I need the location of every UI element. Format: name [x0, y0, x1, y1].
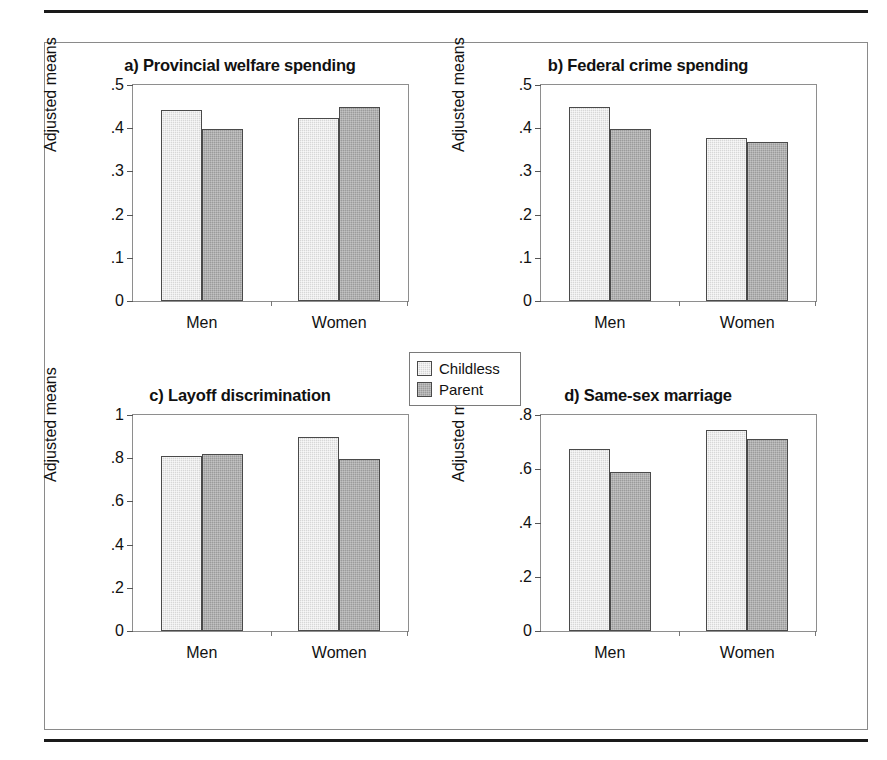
legend-label-childless: Childless — [439, 361, 500, 376]
panel-b-x-tick-mark — [815, 301, 816, 306]
bottom-rule — [44, 739, 868, 742]
panel-a-plot-area: 0.1.2.3.4.5MenWomen — [132, 84, 409, 302]
panel-b-x-tick-mark — [679, 301, 680, 306]
childless-swatch-icon — [417, 361, 432, 376]
panel-a-x-tick-mark — [407, 301, 408, 306]
panel-c: c) Layoff discrimination Adjusted means … — [50, 386, 430, 691]
panel-d-y-tick-mark — [535, 469, 541, 470]
legend-label-parent: Parent — [439, 382, 483, 397]
panel-d-x-tick-label-women: Women — [720, 644, 775, 662]
panel-d-x-tick-mark — [679, 631, 680, 636]
legend: Childless Parent — [409, 352, 521, 406]
panel-c-y-tick-mark — [127, 545, 133, 546]
bar-c-women-parent — [339, 459, 380, 631]
panel-c-y-tick-mark — [127, 415, 133, 416]
panel-d-y-tick-mark — [535, 631, 541, 632]
bar-c-men-childless — [161, 456, 202, 631]
panel-a-y-tick-mark — [127, 85, 133, 86]
panel-d-x-tick-label-men: Men — [594, 644, 625, 662]
panel-a-x-tick-label-women: Women — [312, 314, 367, 332]
bar-a-women-childless — [298, 118, 339, 301]
panel-a-x-tick-mark — [271, 301, 272, 306]
panel-c-y-tick-mark — [127, 631, 133, 632]
panel-d: d) Same-sex marriage Adjusted means 0.2.… — [458, 386, 838, 691]
panel-b-y-tick-mark — [535, 215, 541, 216]
panel-c-y-tick-mark — [127, 588, 133, 589]
panel-b-title: b) Federal crime spending — [458, 56, 838, 75]
panel-d-x-tick-mark — [815, 631, 816, 636]
panel-a-x-tick-label-men: Men — [186, 314, 217, 332]
panel-a-title: a) Provincial welfare spending — [50, 56, 430, 75]
panel-b-y-tick-mark — [535, 301, 541, 302]
bar-a-men-childless — [161, 110, 202, 301]
panel-a-y-tick-mark — [127, 171, 133, 172]
panel-c-y-tick-mark — [127, 501, 133, 502]
legend-item-childless: Childless — [417, 358, 520, 379]
panel-d-y-tick-mark — [535, 415, 541, 416]
panel-a-y-tick-mark — [127, 258, 133, 259]
panel-d-y-tick-mark — [535, 577, 541, 578]
bar-a-men-parent — [202, 129, 243, 301]
panel-d-plot-area: 0.2.4.6.8MenWomen — [540, 414, 817, 632]
bar-b-men-parent — [610, 129, 651, 301]
bar-c-women-childless — [298, 437, 339, 631]
parent-swatch-icon — [417, 382, 432, 397]
top-rule — [44, 10, 868, 13]
legend-item-parent: Parent — [417, 379, 520, 400]
panel-b-y-tick-mark — [535, 171, 541, 172]
panel-a: a) Provincial welfare spending Adjusted … — [50, 56, 430, 361]
bar-c-men-parent — [202, 454, 243, 631]
panel-b-plot-area: 0.1.2.3.4.5MenWomen — [540, 84, 817, 302]
panel-a-y-tick-mark — [127, 215, 133, 216]
panel-c-y-axis-label: Adjusted means — [42, 367, 60, 482]
panel-d-y-tick-mark — [535, 523, 541, 524]
panel-b-y-tick-mark — [535, 258, 541, 259]
panel-c-x-tick-mark — [407, 631, 408, 636]
panel-b-y-tick-mark — [535, 85, 541, 86]
panel-c-x-tick-mark — [271, 631, 272, 636]
panel-b-x-tick-label-women: Women — [720, 314, 775, 332]
panel-a-y-tick-mark — [127, 301, 133, 302]
bar-d-men-parent — [610, 472, 651, 631]
bar-a-women-parent — [339, 107, 380, 301]
bar-d-women-childless — [706, 430, 747, 631]
bar-d-women-parent — [747, 439, 788, 631]
panel-c-title: c) Layoff discrimination — [50, 386, 430, 405]
panel-a-y-tick-mark — [127, 128, 133, 129]
bar-b-women-childless — [706, 138, 747, 301]
panel-c-x-tick-label-men: Men — [186, 644, 217, 662]
panel-c-x-tick-label-women: Women — [312, 644, 367, 662]
panel-b-y-tick-mark — [535, 128, 541, 129]
panel-b: b) Federal crime spending Adjusted means… — [458, 56, 838, 361]
panel-b-y-axis-label: Adjusted means — [450, 37, 468, 152]
bar-b-women-parent — [747, 142, 788, 301]
bar-d-men-childless — [569, 449, 610, 631]
panel-c-plot-area: 0.2.4.6.81MenWomen — [132, 414, 409, 632]
panel-c-y-tick-mark — [127, 458, 133, 459]
panel-a-y-axis-label: Adjusted means — [42, 37, 60, 152]
bar-b-men-childless — [569, 107, 610, 301]
panel-b-x-tick-label-men: Men — [594, 314, 625, 332]
